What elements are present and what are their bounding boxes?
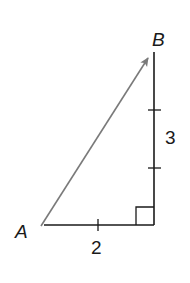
point-b-label: B xyxy=(152,30,165,49)
horizontal-length-label: 2 xyxy=(91,238,102,257)
point-a-label: A xyxy=(15,222,28,241)
vertical-length-label: 3 xyxy=(165,128,176,147)
right-angle-marker xyxy=(136,207,154,225)
vector-ab xyxy=(41,58,148,226)
